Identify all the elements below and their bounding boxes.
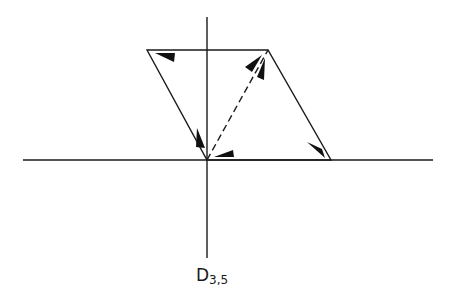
dashed-diagonal-vector <box>207 50 268 160</box>
origin-right-arrowhead-icon <box>214 150 234 157</box>
diagram-canvas <box>0 0 452 305</box>
diagonal-arrowhead-left-icon <box>245 55 262 72</box>
parallelogram <box>147 50 331 160</box>
left-edge-arrowhead-icon <box>196 128 205 148</box>
label-subscript: 3,5 <box>209 273 228 287</box>
label-main: D <box>196 265 209 285</box>
diagram-label: D3,5 <box>196 267 228 286</box>
top-left-arrowhead-icon <box>155 53 175 62</box>
